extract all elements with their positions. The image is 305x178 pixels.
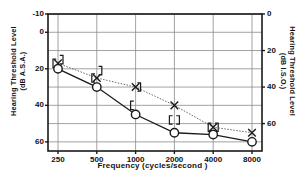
x-tick-label: 1000 <box>118 155 154 164</box>
y-tick-label-left: -10 <box>12 9 44 18</box>
x-tick-label: 250 <box>40 155 76 164</box>
y-tick-label-right: 40 <box>267 82 293 91</box>
marker-circle <box>131 110 139 118</box>
marker-right-bracket <box>177 116 180 124</box>
marker-left-bracket <box>169 116 172 124</box>
right-axis-title-line2: (dB I.S.O.) <box>279 15 288 127</box>
y-tick-label-right: 60 <box>267 119 293 128</box>
x-tick-label: 4000 <box>195 155 231 164</box>
series-line-air-conduction-left-masked <box>58 63 252 132</box>
series-lines <box>58 63 252 142</box>
x-tick-label: 8000 <box>234 155 270 164</box>
y-tick-label-left: 60 <box>12 137 44 146</box>
marker-circle <box>93 83 101 91</box>
y-tick-label-right: 0 <box>267 9 293 18</box>
x-tick-label: 2000 <box>156 155 192 164</box>
right-axis-title-line1: Hearing Threshold Level <box>288 26 297 116</box>
axis-ticks <box>45 14 265 154</box>
marker-circle <box>248 138 256 146</box>
y-tick-label-left: 40 <box>12 100 44 109</box>
marker-circle <box>54 65 62 73</box>
right-axis-title: Hearing Threshold Level (dB I.S.O.) <box>279 15 297 127</box>
audiogram-figure: Hearing Threshold Level (dB A.S.A.) Hear… <box>0 0 305 178</box>
marker-circle <box>170 129 178 137</box>
plot-frame <box>48 14 262 151</box>
y-tick-label-left: 0 <box>12 27 44 36</box>
x-tick-label: 500 <box>79 155 115 164</box>
series-markers <box>54 60 256 147</box>
y-tick-label-left: 20 <box>12 64 44 73</box>
plot-canvas <box>0 0 305 178</box>
y-tick-label-right: 20 <box>267 46 293 55</box>
marker-circle <box>209 130 217 138</box>
marker-right-bracket <box>99 66 102 74</box>
gridlines <box>48 14 262 151</box>
